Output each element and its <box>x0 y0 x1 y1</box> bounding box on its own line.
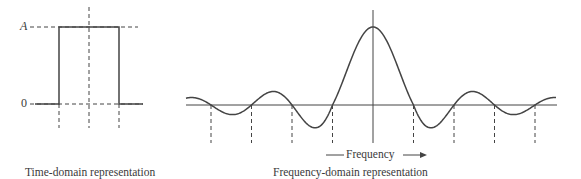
diagram-canvas <box>0 0 581 179</box>
amplitude-label: A <box>20 19 27 34</box>
time-domain-caption: Time-domain representation <box>25 166 155 178</box>
time-domain-plot <box>30 7 143 128</box>
frequency-axis-label: Frequency <box>346 148 395 160</box>
sinc-curve <box>186 27 556 128</box>
frequency-domain-caption: Frequency-domain representation <box>273 166 428 178</box>
frequency-domain-plot <box>186 10 557 158</box>
zero-label: 0 <box>21 96 27 111</box>
arrow-right-icon <box>420 152 427 158</box>
